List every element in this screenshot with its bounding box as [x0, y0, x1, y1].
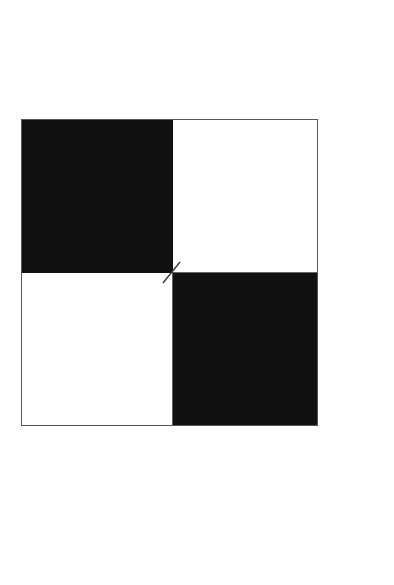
cell-top-right-light — [173, 120, 317, 273]
checkerboard — [21, 119, 318, 426]
cell-bottom-right-dark — [173, 273, 317, 425]
cell-top-left-dark — [22, 120, 173, 273]
cell-bottom-left-light — [22, 273, 173, 425]
